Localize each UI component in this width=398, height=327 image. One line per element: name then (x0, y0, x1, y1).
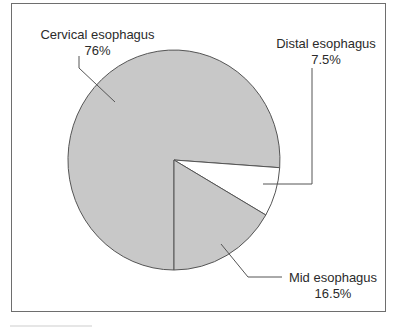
label-value: 16.5% (283, 286, 383, 302)
label-name: Cervical esophagus (30, 27, 165, 43)
label-cervical-esophagus: Cervical esophagus 76% (30, 27, 165, 59)
label-mid-esophagus: Mid esophagus 16.5% (283, 270, 383, 302)
label-value: 7.5% (266, 52, 386, 68)
label-name: Distal esophagus (266, 36, 386, 52)
label-name: Mid esophagus (283, 270, 383, 286)
label-distal-esophagus: Distal esophagus 7.5% (266, 36, 386, 68)
label-value: 76% (30, 43, 165, 59)
